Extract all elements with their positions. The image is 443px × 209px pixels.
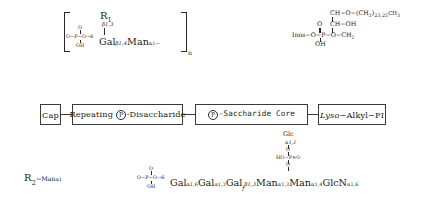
- repeat-gal: Gal: [99, 36, 115, 47]
- core-res-1: Gal: [198, 177, 214, 188]
- core-glc-label: Glc: [283, 131, 294, 137]
- lipid-alkyl-terminal: CH: [388, 10, 397, 16]
- cap-man: Man: [41, 175, 55, 182]
- core-res-3: Man: [256, 177, 278, 188]
- repeat-man: Man: [127, 36, 149, 47]
- core-branch-o-top: O: [286, 147, 290, 152]
- core-glc-bond-4: [288, 167, 289, 171]
- leader-cap-left: [32, 125, 44, 154]
- lipid-c3-sub: 2: [352, 35, 355, 40]
- lipid-alkyl-terminal-sub: 3: [397, 13, 400, 18]
- core-res-0: Gal: [170, 177, 186, 188]
- lipid-alkyl-open: (CH: [356, 9, 369, 16]
- repeat-bracket-right: [181, 12, 187, 52]
- lipid-c1-row: CH−O−(CH2)23,25CH3: [330, 10, 400, 19]
- core-link-2: β1,3: [244, 181, 256, 187]
- core-branch-eq-o: =O: [292, 154, 300, 160]
- repeat-linkage-2: α1−: [149, 40, 160, 46]
- box-repeating-pre: Repeating: [69, 109, 116, 119]
- cap-detail-group: R2→Manα1: [24, 168, 62, 187]
- core-phosphate-top-o: O: [149, 166, 153, 171]
- core-sugar-chain: Galα1,6Galα1,3Galfβ1,3Manα1,3Manα1,4GlcN…: [170, 173, 358, 192]
- core-link-3: α1,3: [278, 181, 289, 187]
- r1-text: R: [100, 10, 108, 21]
- r1-linkage: β1,3: [102, 22, 114, 27]
- core-branch-o-bottom: O: [286, 162, 290, 167]
- core-phos-right: −O→6: [149, 174, 165, 180]
- box-repeating-disaccharide[interactable]: Repeating P-Disaccharide: [72, 104, 183, 125]
- leader-lipid-left: [282, 33, 316, 102]
- core-res-5: GlcN: [323, 177, 348, 188]
- core-res-4: Man: [289, 177, 311, 188]
- cap-linkage: α1: [55, 176, 62, 182]
- circled-p-icon: P: [116, 110, 126, 120]
- core-glc-linkage: α1,1: [285, 140, 296, 145]
- core-link-1: α1,3: [214, 181, 225, 187]
- repeat-phosphate-oh: OH: [76, 43, 84, 48]
- repeat-bracket-left: [64, 12, 70, 52]
- core-link-5: α1,6: [347, 181, 358, 187]
- box-lyso-rest: −Alkyl−PI: [340, 110, 385, 120]
- repeat-sugar-chain: Galβ1,4Manα1−: [99, 32, 160, 48]
- box-lyso-italic: Lyso: [320, 110, 340, 120]
- repeat-phosphate-row: O−P−O→6: [66, 34, 93, 39]
- box-cap[interactable]: Cap: [40, 104, 61, 125]
- lipid-c2-row: CH−OH: [330, 21, 356, 27]
- leader-core-left: [161, 125, 195, 173]
- lipid-phosphate-top-o: O: [317, 21, 322, 27]
- leader-cap-right: [72, 125, 84, 154]
- r2-text: R: [24, 172, 32, 183]
- box-saccharide-core[interactable]: P-Saccharide Core: [195, 104, 308, 125]
- box-repeating-post: -Disaccharide: [127, 109, 186, 119]
- circled-p-icon-core: P: [208, 110, 218, 120]
- core-phosphate-row: O−P−O→6: [137, 175, 164, 180]
- repeat-phos-right: −O→6: [78, 33, 94, 39]
- repeat-linkage-1: β1,4: [115, 40, 127, 46]
- core-phosphate-oh: OH: [147, 184, 155, 189]
- core-link-4: α1,4: [311, 181, 322, 187]
- lpg-structure-diagram: R1 β1,3 O O−P−O→6 OH Galβ1,4Manα1− n CH−…: [0, 0, 443, 209]
- core-res-2: Gal: [226, 177, 242, 188]
- lipid-inositol: Inos−O−: [292, 31, 321, 38]
- lipid-c3: CH: [341, 31, 351, 38]
- core-branch-ho: HO−: [276, 154, 289, 160]
- lipid-c1: CH−O−: [330, 9, 356, 16]
- core-branch-phosphate-row: HO−P=O: [276, 155, 300, 160]
- repeat-phosphate-top-o: O: [78, 25, 82, 30]
- lipid-phosphate-oh: OH: [315, 41, 326, 47]
- repeat-count-n: n: [188, 50, 192, 56]
- box-lyso-alkyl-pi[interactable]: Lyso−Alkyl−PI: [318, 104, 386, 125]
- lipid-alkyl-length: 23,25: [374, 12, 388, 18]
- box-core-label: P-Saccharide Core: [208, 109, 295, 120]
- box-cap-label: Cap: [42, 110, 59, 120]
- box-core-post: -Saccharide Core: [219, 109, 295, 118]
- core-link-0: α1,6: [186, 181, 197, 187]
- lipid-phos-o: −O−: [326, 31, 342, 38]
- leader-core-right: [308, 125, 342, 173]
- box-lyso-label: Lyso−Alkyl−PI: [320, 110, 384, 120]
- box-repeating-label: Repeating P-Disaccharide: [69, 109, 185, 121]
- leader-lipid-right: [377, 33, 411, 102]
